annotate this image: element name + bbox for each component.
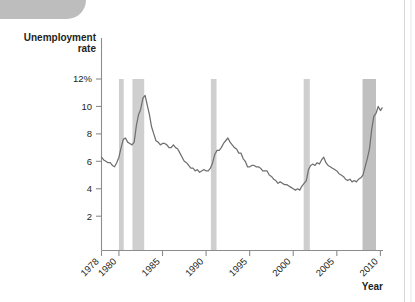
y-tick-label: 8 — [87, 128, 92, 139]
x-axis-title: Year — [362, 281, 383, 292]
recession-band — [304, 79, 310, 251]
x-tick-label: 1980 — [96, 256, 119, 279]
y-tick-label: 4 — [87, 183, 92, 194]
recession-band — [119, 79, 124, 251]
y-axis-title-line2: rate — [78, 43, 97, 54]
x-tick-label: 1990 — [183, 256, 206, 279]
y-axis: 12%108642 — [73, 38, 102, 250]
x-tick-label: 2005 — [313, 256, 336, 279]
x-tick-label: 1978 — [78, 256, 101, 279]
x-axis: 19781980198519901995200020052010 — [78, 251, 383, 279]
x-tick-label: 2010 — [357, 256, 380, 279]
figure-page: 12%108642 197819801985199019952000200520… — [0, 0, 415, 302]
recession-band — [363, 79, 377, 251]
y-axis-title-line1: Unemployment — [24, 32, 97, 43]
unemployment-rate-line-chart: 12%108642 197819801985199019952000200520… — [0, 0, 415, 302]
y-tick-label: 10 — [81, 101, 92, 112]
x-tick-label: 1995 — [226, 256, 249, 279]
x-tick-label: 2000 — [270, 256, 293, 279]
y-tick-label: 12% — [73, 73, 93, 84]
x-tick-label: 1985 — [139, 256, 162, 279]
recession-band — [132, 79, 144, 251]
y-tick-label: 2 — [87, 211, 92, 222]
recession-bands — [119, 79, 376, 251]
y-tick-label: 6 — [87, 156, 92, 167]
